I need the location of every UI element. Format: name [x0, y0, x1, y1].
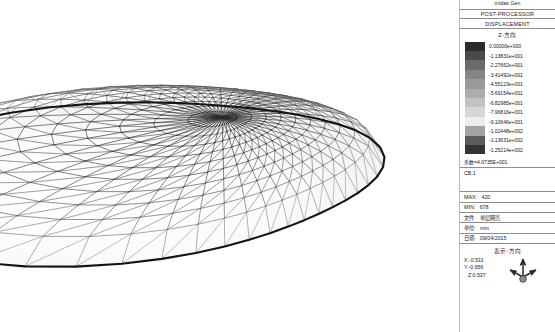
file-key: 文件:	[464, 215, 475, 221]
legend-value-label: -4.55123e+001	[489, 81, 523, 87]
shell-mesh-graphic	[0, 0, 458, 332]
min-value: 678	[480, 204, 489, 210]
legend-row: -3.41492e+001	[460, 70, 555, 79]
legend-value-label: -1.02448e+002	[489, 128, 523, 134]
unit-row: 单位: mm	[460, 223, 555, 233]
legend-row: -4.55123e+001	[460, 79, 555, 88]
legend-color-swatch	[465, 107, 485, 116]
legend-row: -1.25214e+002	[460, 145, 555, 154]
legend-value-label: -6.82985e+001	[489, 100, 523, 106]
legend-value-label: 0.00000e+000	[489, 43, 521, 49]
min-key: MIN:	[464, 204, 475, 210]
legend-value-label: -1.25214e+002	[489, 147, 523, 153]
load-combination-label: CB.1	[460, 168, 555, 176]
min-node-row: MIN: 678	[460, 203, 555, 213]
legend-row: -5.69154e+001	[460, 89, 555, 98]
legend-row: -1.13631e+002	[460, 136, 555, 145]
orientation-block: 表示-方向 X:-0.531 Y:-0.656 Z:0.537	[460, 244, 555, 306]
axis-triad-icon	[506, 256, 540, 290]
unit-value: mm	[480, 225, 489, 231]
result-type-title: DISPLACEMENT	[460, 19, 555, 29]
legend-value-label: -1.13631e+002	[489, 137, 523, 143]
legend-scale: 0.00000e+000-1.13831e+001-2.27662e+001-3…	[460, 42, 555, 156]
legend-row: -2.27662e+001	[460, 60, 555, 69]
legend-color-swatch	[465, 136, 485, 145]
legend-row: -1.02448e+002	[460, 126, 555, 135]
legend-value-label: -3.41492e+001	[489, 72, 523, 78]
unit-key: 单位:	[464, 225, 475, 231]
legend-color-swatch	[465, 79, 485, 88]
legend-row: 0.00000e+000	[460, 42, 555, 51]
legend-color-swatch	[465, 98, 485, 107]
legend-color-swatch	[465, 126, 485, 135]
legend-row: -9.10646e+001	[460, 117, 555, 126]
legend-color-swatch	[465, 42, 485, 51]
legend-row: -1.13831e+001	[460, 51, 555, 60]
legend-color-swatch	[465, 60, 485, 69]
max-key: MAX:	[464, 194, 477, 200]
model-viewport[interactable]	[0, 0, 458, 332]
results-panel: midas Gen POST-PROCESSOR DISPLACEMENT Z-…	[459, 0, 555, 332]
file-value: 单层网壳	[480, 215, 500, 221]
legend-row: -6.82985e+001	[460, 98, 555, 107]
module-title: POST-PROCESSOR	[460, 10, 555, 20]
legend-value-label: -7.96816e+001	[489, 109, 523, 115]
legend-color-swatch	[465, 145, 485, 154]
component-label: Z-方向	[460, 29, 555, 42]
orientation-title: 表示-方向	[460, 244, 555, 257]
legend-value-label: -5.69154e+001	[489, 90, 523, 96]
legend-value-label: -1.13831e+001	[489, 53, 523, 59]
legend-color-swatch	[465, 89, 485, 98]
legend-color-swatch	[465, 117, 485, 126]
file-row: 文件: 单层网壳	[460, 213, 555, 223]
brand-name: midas Gen	[495, 0, 521, 6]
legend-color-swatch	[465, 70, 485, 79]
legend-color-swatch	[465, 51, 485, 60]
max-node-row: MAX: 420	[460, 192, 555, 202]
legend-value-label: -2.27662e+001	[489, 62, 523, 68]
legend-value-label: -9.10646e+001	[489, 119, 523, 125]
date-key: 日期:	[464, 235, 475, 241]
legend-row: -7.96816e+001	[460, 107, 555, 116]
date-row: 日期: 09/04/2015	[460, 234, 555, 244]
brand-title: midas Gen	[460, 0, 555, 10]
max-value: 420	[481, 194, 490, 200]
coefficient-label: 系数=4.0735E+001	[460, 155, 555, 168]
date-value: 09/04/2015	[480, 235, 507, 241]
load-combination-block: CB.1	[460, 168, 555, 192]
